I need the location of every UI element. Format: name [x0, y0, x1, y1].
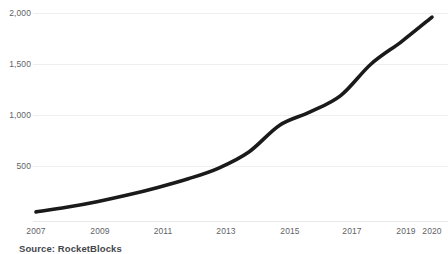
x-tick-label-2020: 2020: [422, 226, 441, 237]
x-tick-label-2019: 2019: [396, 226, 415, 237]
x-tick-label-2013: 2013: [216, 226, 235, 237]
source-caption: Source: RocketBlocks: [19, 243, 122, 254]
line-chart-figure: 2,000 1,500 1,000 500 2007 2009 2011 201…: [0, 0, 448, 254]
x-axis: 2007 2009 2011 2013 2015 2017 2019 2020: [0, 226, 448, 240]
x-tick-label-2007: 2007: [26, 226, 45, 237]
x-tick-label-2011: 2011: [154, 226, 173, 237]
x-tick-label-2015: 2015: [280, 226, 299, 237]
x-tick-label-2017: 2017: [342, 226, 361, 237]
x-tick-label-2009: 2009: [90, 226, 109, 237]
series-line: [0, 0, 448, 254]
